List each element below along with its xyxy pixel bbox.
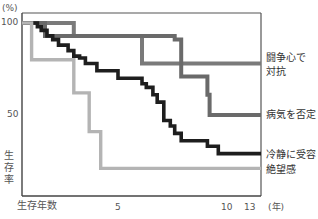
legend-denial: 病気を否定: [266, 108, 316, 122]
x-tick-13: 13: [244, 202, 255, 213]
y-tick-50: 50: [7, 109, 18, 120]
x-axis-title: 生存年数: [17, 200, 57, 213]
legend-label-line: 闘争心で: [266, 51, 306, 65]
y-unit-label: (%): [2, 3, 18, 14]
series-lines: [22, 23, 261, 168]
legend-stoic-acceptance: 冷静に受容: [266, 148, 316, 162]
legend-fighting-spirit: 闘争心で 対抗: [266, 51, 306, 78]
y-tick-100: 100: [1, 17, 18, 28]
legend-label-line: 対抗: [266, 65, 306, 79]
series-line: [22, 23, 261, 115]
x-tick-5: 5: [115, 202, 121, 213]
legend-hopelessness: 絶望感: [266, 163, 296, 177]
x-unit-label: (年): [268, 202, 284, 213]
x-tick-10: 10: [221, 202, 232, 213]
y-axis-title: 生存率: [4, 150, 15, 186]
